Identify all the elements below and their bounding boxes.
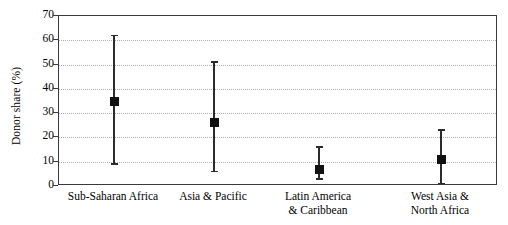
error-bar-cap-lower: [111, 163, 118, 165]
error-bar-cap-lower: [316, 178, 323, 180]
data-point-marker: [437, 155, 446, 164]
error-bar-line: [213, 62, 215, 171]
error-bar-cap-upper: [211, 61, 218, 63]
x-axis-label-2: Latin America & Caribbean: [258, 190, 378, 217]
y-tick-label-50: 50: [0, 58, 54, 70]
x-axis-label-3: West Asia & North Africa: [380, 190, 500, 217]
x-axis-label-1: Asia & Pacific: [153, 190, 273, 204]
y-tick-label-60: 60: [0, 33, 54, 45]
data-point-marker: [110, 97, 119, 106]
data-point-marker: [315, 165, 324, 174]
error-bar-cap-upper: [316, 146, 323, 148]
y-tick-mark-0: [53, 185, 58, 186]
y-tick-label-0: 0: [0, 179, 54, 191]
data-point-marker: [210, 118, 219, 127]
y-tick-label-20: 20: [0, 130, 54, 142]
y-tick-label-10: 10: [0, 155, 54, 167]
y-tick-label-70: 70: [0, 9, 54, 21]
plot-area: [58, 15, 497, 185]
chart-container: Donor share (%) 010203040506070 Sub-Saha…: [0, 0, 508, 225]
y-tick-label-30: 30: [0, 106, 54, 118]
error-bar-cap-upper: [438, 129, 445, 131]
error-bar-line: [318, 147, 320, 179]
error-bar-cap-lower: [438, 183, 445, 185]
y-tick-label-40: 40: [0, 82, 54, 94]
error-bar-cap-lower: [211, 171, 218, 173]
error-bar-cap-upper: [111, 35, 118, 37]
data-series: [59, 16, 496, 184]
